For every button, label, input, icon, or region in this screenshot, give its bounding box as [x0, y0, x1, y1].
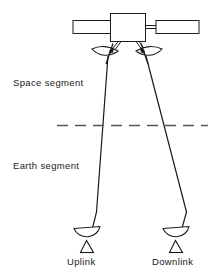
uplink-beam-path — [97, 56, 109, 212]
solar-panel-right — [156, 21, 199, 34]
earth-segment-label: Earth segment — [13, 161, 79, 171]
antenna-left-strut — [113, 42, 122, 50]
satellite-bus — [111, 14, 146, 42]
solar-panel-left — [73, 21, 116, 34]
solar-panel-right-boom — [146, 26, 156, 29]
ground-station-dish-downlink — [163, 212, 189, 253]
uplink-label: Uplink — [67, 257, 96, 267]
downlink-beam-path — [146, 56, 187, 212]
space-segment-label: Space segment — [13, 78, 84, 88]
downlink-label: Downlink — [152, 257, 193, 267]
figure-canvas: Space segment Earth segment Uplink Downl… — [0, 0, 221, 276]
ground-station-dish-uplink — [74, 212, 100, 253]
satellite-link-diagram — [0, 0, 221, 276]
